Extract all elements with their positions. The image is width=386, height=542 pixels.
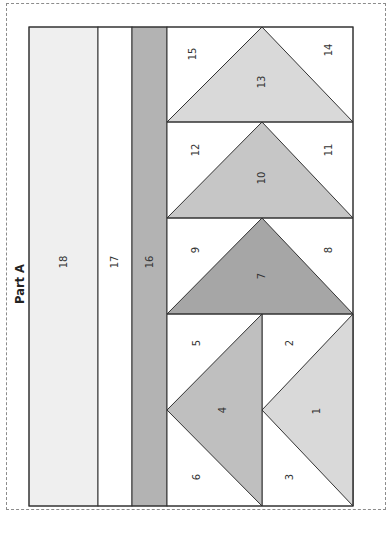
- label-6: 6: [191, 474, 202, 480]
- label-4: 4: [217, 407, 228, 413]
- label-3: 3: [284, 474, 295, 480]
- label-18: 18: [58, 256, 69, 269]
- part-title: Part A: [13, 264, 27, 304]
- label-11: 11: [323, 144, 334, 157]
- label-7: 7: [256, 273, 267, 279]
- label-10: 10: [256, 172, 267, 185]
- label-1: 1: [311, 408, 322, 414]
- label-2: 2: [284, 340, 295, 346]
- label-16: 16: [144, 256, 155, 269]
- label-13: 13: [256, 76, 267, 89]
- label-17: 17: [109, 256, 120, 269]
- label-9: 9: [190, 247, 201, 253]
- label-5: 5: [191, 340, 202, 346]
- label-12: 12: [190, 144, 201, 157]
- label-8: 8: [323, 247, 334, 253]
- label-15: 15: [187, 48, 198, 61]
- label-14: 14: [323, 44, 334, 57]
